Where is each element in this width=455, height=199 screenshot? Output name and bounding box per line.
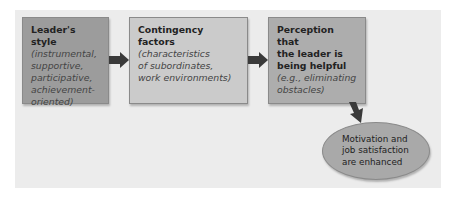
node-contingency-factors: Contingency factors (characteristics of … — [129, 17, 248, 104]
node-title: Contingency factors — [138, 24, 239, 48]
arrow-down-icon — [345, 102, 367, 124]
node-subtitle-line: (e.g., eliminating — [277, 72, 357, 84]
node-title-line: being helpful — [277, 60, 357, 72]
node-subtitle-line: supportive, — [31, 60, 100, 72]
node-title: Leader's style — [31, 24, 100, 48]
node-perception-helpful: Perception that the leader is being help… — [268, 17, 366, 104]
outcome-line: Motivation and — [342, 134, 410, 146]
node-subtitle-line: achievement- — [31, 84, 100, 96]
arrow-right-icon — [109, 52, 129, 68]
node-subtitle-line: (characteristics — [138, 48, 239, 60]
node-subtitle-line: (instrumental, — [31, 48, 100, 60]
node-leaders-style: Leader's style (instrumental, supportive… — [22, 17, 109, 104]
arrow-right-icon — [248, 52, 268, 68]
outcome-line: are enhanced — [342, 157, 410, 169]
node-subtitle-line: obstacles) — [277, 84, 357, 96]
node-outcome-ellipse: Motivation and job satisfaction are enha… — [322, 122, 430, 180]
node-title-line: the leader is — [277, 48, 357, 60]
node-subtitle-line: participative, — [31, 72, 100, 84]
node-title-line: Perception that — [277, 24, 357, 48]
node-subtitle-line: oriented) — [31, 96, 100, 108]
node-subtitle-line: work environments) — [138, 72, 239, 84]
outcome-line: job satisfaction — [342, 145, 410, 157]
node-subtitle-line: of subordinates, — [138, 60, 239, 72]
outcome-text: Motivation and job satisfaction are enha… — [342, 134, 410, 169]
